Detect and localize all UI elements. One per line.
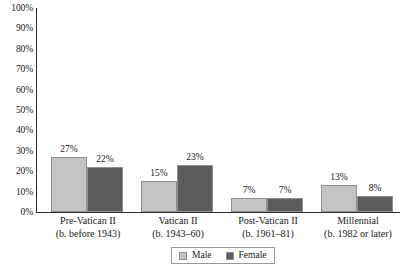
y-axis-tick-70: 70% — [0, 64, 33, 74]
category-label: Millennial(b. 1982 or later) — [298, 214, 416, 240]
category-label-name: Millennial — [298, 214, 416, 227]
legend-label: Female — [239, 250, 267, 261]
chart-legend: MaleFemale — [171, 247, 275, 264]
x-axis-line — [36, 212, 400, 213]
bar-group: 13%8% — [313, 8, 403, 212]
bar-group: 7%7% — [223, 8, 313, 212]
y-axis-tick-90: 90% — [0, 23, 33, 33]
legend-swatch-icon — [226, 252, 234, 260]
legend-item-male[interactable]: Male — [179, 250, 212, 261]
bar-female — [177, 165, 213, 212]
bar-male — [321, 185, 357, 212]
y-axis-tick-40: 40% — [0, 125, 33, 135]
bar-value-label: 8% — [353, 183, 397, 194]
bar-female — [267, 198, 303, 212]
bar-group: 15%23% — [133, 8, 223, 212]
y-axis-tick-20: 20% — [0, 166, 33, 176]
bar-male — [51, 157, 87, 212]
bar-female — [87, 167, 123, 212]
y-axis-tick-100: 100% — [0, 3, 33, 13]
bar-chart: 100%90%80%70%60%50%40%30%20%10%0% 27%22%… — [0, 0, 416, 272]
bar-value-label: 15% — [137, 168, 181, 179]
bar-group: 27%22% — [43, 8, 133, 212]
bar-value-label: 22% — [83, 154, 127, 165]
y-axis-tick-30: 30% — [0, 146, 33, 156]
y-axis-tick-10: 10% — [0, 187, 33, 197]
bar-value-label: 23% — [173, 152, 217, 163]
category-label-birthyears: (b. 1982 or later) — [298, 227, 416, 240]
bar-groups: 27%22%15%23%7%7%13%8% — [37, 8, 400, 212]
bar-value-label: 7% — [263, 185, 307, 196]
bar-male — [231, 198, 267, 212]
legend-swatch-icon — [179, 252, 187, 260]
bar-female — [357, 196, 393, 212]
legend-item-female[interactable]: Female — [226, 250, 267, 261]
x-axis-category-labels: Pre-Vatican II(b. before 1943)Vatican II… — [37, 214, 400, 248]
y-axis-tick-60: 60% — [0, 85, 33, 95]
y-axis-tick-80: 80% — [0, 44, 33, 54]
bar-male — [141, 181, 177, 212]
y-axis-tick-50: 50% — [0, 105, 33, 115]
legend-label: Male — [192, 250, 212, 261]
